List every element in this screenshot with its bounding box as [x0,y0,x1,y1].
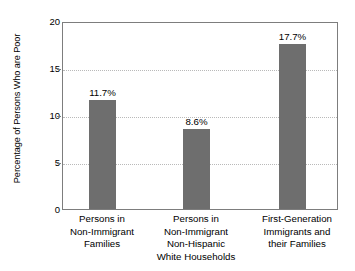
y-tick-mark-15 [57,69,61,70]
x-tick-label-0-line-1: Non-Immigrant [54,226,150,239]
x-tick-label-1-line-2: Non-Hispanic [145,238,247,251]
plot-area: 11.7% 8.6% 17.7% [62,22,338,210]
x-tick-label-1-line-1: Non-Immigrant [145,226,247,239]
bar-persons-in-non-immigrant-non-hispanic-white-households[interactable] [183,129,210,209]
bar-first-generation-immigrants-and-their-families[interactable] [279,44,306,209]
x-tick-label-2-line-2: their Families [247,238,347,251]
x-tick-label-1: Persons in Non-Immigrant Non-Hispanic Wh… [145,213,247,263]
y-axis-ticks: 20 15 10 5 0 [30,22,60,210]
x-tick-label-1-line-0: Persons in [145,213,247,226]
y-tick-mark-10 [57,116,61,117]
x-tick-label-2-line-0: First-Generation [247,213,347,226]
bar-value-label-0: 11.7% [76,87,129,98]
y-axis-title: Percentage of Persons Who are Poor [9,3,25,214]
y-tick-mark-5 [57,163,61,164]
bar-persons-in-non-immigrant-families[interactable] [89,100,116,209]
x-tick-label-2: First-Generation Immigrants and their Fa… [247,213,347,251]
bar-chart: Percentage of Persons Who are Poor 20 15… [0,0,355,271]
x-tick-label-0-line-2: Families [54,238,150,251]
x-axis-category-labels: Persons in Non-Immigrant Families Person… [62,213,338,271]
bar-value-label-1: 8.6% [170,116,223,127]
bar-value-label-2: 17.7% [266,31,319,42]
x-tick-label-2-line-1: Immigrants and [247,226,347,239]
x-tick-label-0-line-0: Persons in [54,213,150,226]
y-tick-label-20: 20 [36,17,60,27]
x-tick-label-1-line-3: White Households [145,251,247,264]
x-tick-label-0: Persons in Non-Immigrant Families [54,213,150,251]
